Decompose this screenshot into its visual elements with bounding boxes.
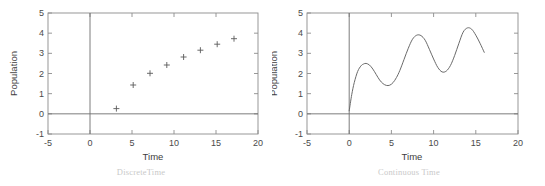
x-tick-label: 20: [253, 138, 263, 148]
y-tick-label: 3: [298, 48, 303, 58]
x-tick-label: 5: [389, 138, 394, 148]
population-curve: [349, 28, 484, 111]
data-point: [181, 54, 187, 60]
x-tickmarks-top: [349, 13, 476, 17]
panel-continuous-time: 5 4 3 2 1 0 -1 -5 0 5 10 15 20 Time Popu…: [272, 0, 544, 186]
x-tickmarks-top: [90, 13, 216, 17]
y-tick-label: 4: [298, 28, 303, 38]
panel-discrete-time: 5 4 3 2 1 0 -1 -5 0 5 10 15 20 Time Popu…: [0, 0, 272, 186]
y-tick-label: 0: [298, 109, 303, 119]
y-tick-label: 4: [39, 28, 44, 38]
x-tick-label: 15: [211, 138, 221, 148]
x-tick-label: 10: [429, 138, 439, 148]
y-tick-label: 1: [298, 89, 303, 99]
x-tick-label: 10: [169, 138, 179, 148]
x-tickmarks: [48, 130, 258, 134]
discrete-time-plot: 5 4 3 2 1 0 -1 -5 0 5 10 15 20 Time Popu…: [0, 0, 272, 186]
data-point: [147, 70, 153, 76]
y-tick-label: 1: [39, 89, 44, 99]
y-axis-title: Population: [272, 51, 279, 96]
y-tickmarks: [48, 13, 52, 134]
x-tick-label: 5: [129, 138, 134, 148]
x-tickmarks: [307, 130, 518, 134]
data-point: [164, 62, 170, 68]
y-tick-label: 5: [298, 8, 303, 18]
y-tick-label: 0: [39, 109, 44, 119]
x-tick-label: 0: [87, 138, 92, 148]
y-tickmarks: [307, 13, 311, 134]
data-point: [231, 36, 237, 42]
continuous-time-plot: 5 4 3 2 1 0 -1 -5 0 5 10 15 20 Time Popu…: [272, 0, 544, 186]
y-tick-label: -1: [295, 129, 303, 139]
y-axis-title: Population: [8, 51, 19, 96]
data-markers: [113, 36, 237, 112]
y-tick-label: 3: [39, 48, 44, 58]
data-point: [113, 106, 119, 112]
y-tick-label: 5: [39, 8, 44, 18]
figure-container: 5 4 3 2 1 0 -1 -5 0 5 10 15 20 Time Popu…: [0, 0, 545, 186]
data-point: [214, 41, 220, 47]
x-axis-title: Time: [402, 151, 423, 162]
x-tick-label: -5: [44, 138, 52, 148]
panel-caption: DiscreteTime: [117, 167, 165, 177]
x-tick-label: 15: [471, 138, 481, 148]
plot-frame: [307, 13, 518, 134]
x-tick-label: -5: [303, 138, 311, 148]
x-tick-label: 20: [513, 138, 523, 148]
panel-caption: Continuous Time: [378, 167, 440, 177]
y-tickmarks-right: [514, 33, 518, 114]
x-tick-label: 0: [347, 138, 352, 148]
data-point: [130, 82, 136, 88]
y-tickmarks-right: [254, 33, 258, 114]
data-point: [197, 47, 203, 53]
y-tick-label: 2: [39, 69, 44, 79]
y-tick-label: -1: [36, 129, 44, 139]
y-tick-label: 2: [298, 69, 303, 79]
x-axis-title: Time: [143, 151, 164, 162]
